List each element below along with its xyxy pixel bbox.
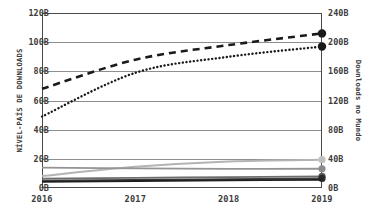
gridline: [43, 42, 321, 43]
gridline: [43, 71, 321, 72]
y-tick-label-right: 0B: [328, 183, 368, 193]
y-tick-label-right: 40B: [328, 154, 368, 164]
x-tick-label: 2017: [111, 194, 159, 204]
y-tick-label-left: 20B: [9, 154, 49, 164]
y-tick-label-right: 120B: [328, 96, 368, 106]
y-tick-label-right: 160B: [328, 66, 368, 76]
x-tick-label: 2016: [18, 194, 66, 204]
x-tick-label: 2018: [205, 194, 253, 204]
y-tick-label-right: 240B: [328, 8, 368, 18]
plot-area: [42, 13, 322, 188]
gridline: [43, 159, 321, 160]
gridline: [43, 101, 321, 102]
y-tick-label-left: 60B: [9, 96, 49, 106]
x-tick-label: 2019: [298, 194, 346, 204]
y-tick-label-left: 100B: [9, 37, 49, 47]
y-tick-label-left: 40B: [9, 125, 49, 135]
y-tick-label-right: 80B: [328, 125, 368, 135]
y-tick-label-left: 0B: [9, 183, 49, 193]
y-tick-label-left: 80B: [9, 66, 49, 76]
y-tick-label-left: 120B: [9, 8, 49, 18]
gridline: [43, 130, 321, 131]
y-tick-label-right: 200B: [328, 37, 368, 47]
chart-container: NÍVEL-PAÍS DE DOWNLOADS Downloads no Mun…: [0, 0, 375, 215]
